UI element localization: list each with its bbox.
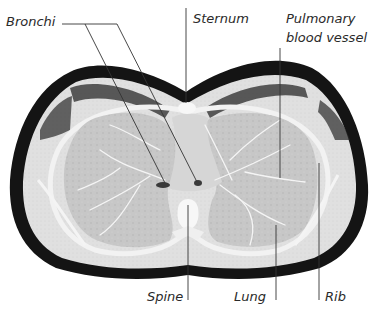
right-bronchus: [194, 180, 202, 186]
label-bronchi: Bronchi: [6, 14, 55, 29]
label-spine: Spine: [147, 289, 183, 304]
label-sternum: Sternum: [193, 11, 249, 26]
label-lung: Lung: [234, 289, 266, 304]
sternum-bone: [178, 102, 196, 114]
label-rib: Rib: [325, 289, 346, 304]
ct-scan-image: [0, 0, 376, 309]
ct-thorax-diagram: Bronchi Sternum Pulmonary blood vessel S…: [0, 0, 376, 309]
label-pulmonary: Pulmonary: [286, 11, 356, 26]
label-blood-vessel: blood vessel: [286, 30, 367, 45]
left-bronchus: [156, 182, 170, 188]
left-lung: [64, 113, 176, 248]
